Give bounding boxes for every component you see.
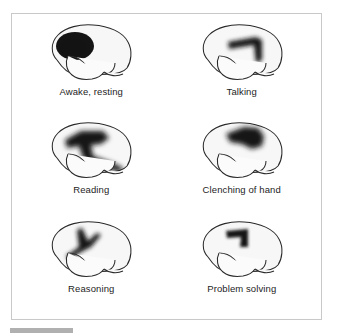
activation-overlay — [56, 32, 94, 60]
brain-diagram-clenching-of-hand — [186, 118, 298, 182]
brain-panel-grid: Awake, resting — [12, 14, 321, 319]
brain-panel-talking: Talking — [167, 20, 318, 118]
brain-panel-reading: Reading — [16, 118, 167, 216]
panel-label: Clenching of hand — [203, 185, 281, 195]
panel-label: Awake, resting — [59, 87, 123, 97]
brain-panel-clenching-of-hand: Clenching of hand — [167, 118, 318, 216]
panel-label: Talking — [227, 87, 257, 97]
bottom-gray-bar — [10, 328, 73, 333]
panel-label: Reading — [73, 185, 109, 195]
brain-diagram-problem-solving — [186, 217, 298, 281]
panel-label: Problem solving — [207, 284, 276, 294]
figure-frame: Awake, resting — [11, 13, 322, 320]
brain-panel-problem-solving: Problem solving — [167, 217, 318, 315]
brain-panel-awake-resting: Awake, resting — [16, 20, 167, 118]
brain-panel-reasoning: Reasoning — [16, 217, 167, 315]
panel-label: Reasoning — [68, 284, 114, 294]
brain-diagram-talking — [186, 20, 298, 84]
brain-diagram-awake-resting — [35, 20, 147, 84]
brain-diagram-reading — [35, 118, 147, 182]
brain-diagram-reasoning — [35, 217, 147, 281]
